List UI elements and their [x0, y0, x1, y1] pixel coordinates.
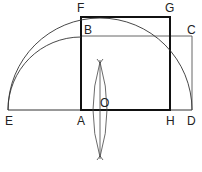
label-F: F — [77, 2, 84, 14]
label-C: C — [187, 24, 196, 36]
label-B: B — [84, 24, 92, 36]
diagram-canvas: F G B C E A O H D — [0, 0, 202, 172]
label-E: E — [5, 115, 13, 127]
rectangle-BCD — [81, 36, 192, 110]
label-H: H — [166, 115, 175, 127]
label-A: A — [77, 115, 85, 127]
label-D: D — [187, 115, 196, 127]
arc-center-A — [8, 37, 81, 110]
square-AFGH — [81, 17, 170, 110]
geometry-figure — [0, 0, 202, 172]
label-O: O — [100, 97, 109, 109]
label-G: G — [165, 2, 174, 14]
